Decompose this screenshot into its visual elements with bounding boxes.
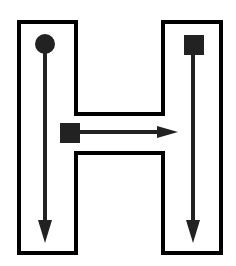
stroke-3-crossbar-right — [60, 123, 178, 143]
start-square-icon — [184, 35, 204, 55]
start-square-icon — [60, 123, 80, 143]
arrow-right-icon — [157, 126, 178, 138]
stroke-2-right-down — [184, 35, 204, 243]
letter-h-stroke-order-diagram — [0, 0, 236, 266]
h-outline — [19, 22, 221, 253]
stroke-1-left-down — [35, 34, 55, 243]
arrow-down-icon — [38, 220, 52, 243]
arrow-down-icon — [186, 220, 200, 243]
